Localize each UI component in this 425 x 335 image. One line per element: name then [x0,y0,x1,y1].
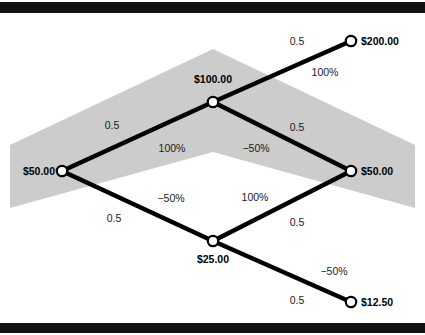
node-label-down-down: $12.50 [361,296,393,308]
node-up[interactable] [208,97,218,107]
edge-return-down: −50% [157,192,184,204]
branch-down-up [213,171,351,241]
binomial-tree-figure: $50.00 $100.00 $25.00 $200.00 $50.00 $12… [0,0,425,335]
tree-canvas: $50.00 $100.00 $25.00 $200.00 $50.00 $12… [0,0,425,335]
edge-probability-up-up: 0.5 [290,35,305,47]
branch-down [62,171,213,241]
node-down[interactable] [208,236,218,246]
node-label-root: $50.00 [23,165,55,177]
edge-probability-down: 0.5 [107,212,122,224]
edge-probability-up: 0.5 [105,119,120,131]
edge-return-up-down: −50% [242,142,269,154]
edge-return-down-up: 100% [242,191,269,203]
node-up-down[interactable] [346,166,356,176]
node-root[interactable] [57,166,67,176]
node-down-down[interactable] [346,297,356,307]
edge-return-up-up: 100% [312,66,339,78]
top-rule [0,2,425,13]
edge-return-up: 100% [159,142,186,154]
node-label-up: $100.00 [194,73,232,85]
node-label-up-down: $50.00 [361,165,393,177]
node-label-up-up: $200.00 [361,35,399,47]
node-up-up[interactable] [346,36,356,46]
bottom-rule [0,323,425,333]
node-label-down: $25.00 [197,253,229,265]
edge-return-down-down: −50% [320,265,347,277]
edge-probability-up-down: 0.5 [290,121,305,133]
edge-probability-down-up: 0.5 [290,216,305,228]
edge-probability-down-down: 0.5 [290,294,305,306]
